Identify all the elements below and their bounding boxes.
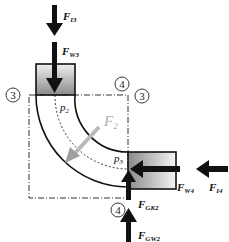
label-F-I4: FI4	[208, 181, 223, 195]
svg-text:3: 3	[139, 90, 145, 102]
svg-text:4: 4	[119, 78, 125, 90]
pipe-outer-wall	[36, 95, 128, 187]
label-F-GW2: FGW2	[137, 229, 161, 242]
label-F-GK2: FGK2	[137, 198, 159, 212]
force-arrow-F-GW2	[120, 208, 137, 242]
label-p2: p2	[59, 101, 70, 115]
section-marker-left-3: 3	[6, 88, 20, 102]
label-F-W3: FW3	[61, 45, 80, 59]
pipe-bend-diagram: FI3 FW3 FW4 FI4 FGK2 FGW2 F2 p2 p3 3 4 3…	[0, 0, 229, 242]
svg-text:3: 3	[10, 89, 16, 101]
label-F-W4: FW4	[176, 181, 195, 195]
section-marker-bottom-4: 4	[111, 203, 125, 217]
label-F2: F2	[103, 113, 118, 131]
section-marker-right-3: 3	[135, 89, 149, 103]
label-p3: p3	[113, 152, 124, 166]
label-F-I3: FI3	[62, 10, 77, 24]
svg-text:4: 4	[115, 204, 121, 216]
force-arrow-F-I4	[196, 160, 228, 178]
section-marker-top-4: 4	[115, 77, 129, 91]
force-arrow-F-I3	[46, 5, 63, 36]
resultant-force-arrow-F2	[65, 127, 99, 163]
